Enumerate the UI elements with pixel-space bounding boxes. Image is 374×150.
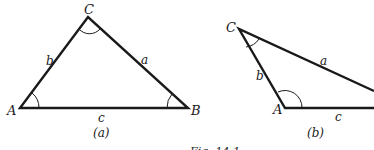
side-label-b: b (46, 54, 54, 68)
panel-caption-a: (a) (93, 126, 110, 140)
vertex-label-C: C (84, 2, 94, 17)
triangle-a: A B C b a c (a) (6, 2, 201, 140)
vertex-label-A-b: A (272, 102, 282, 117)
figure-caption-partial: Fig. 14-1 (189, 145, 240, 150)
vertex-label-B: B (190, 103, 201, 118)
panel-caption-b: (b) (307, 126, 324, 140)
angle-arc-a-C (79, 29, 100, 34)
figure-canvas: A B C b a c (a) C A b a c (b) Fig. 14-1 (0, 0, 374, 150)
side-label-b-b: b (256, 69, 264, 83)
vertex-label-A: A (6, 103, 16, 118)
side-label-a-b: a (320, 54, 327, 68)
side-label-c-b: c (335, 110, 342, 124)
angle-arc-a-A (32, 93, 39, 108)
triangle-b: C A b a c (b) (226, 20, 374, 140)
angle-arc-a-B (167, 94, 172, 108)
side-label-c: c (98, 111, 105, 125)
vertex-label-C-b: C (226, 20, 236, 35)
side-label-a: a (141, 53, 148, 67)
